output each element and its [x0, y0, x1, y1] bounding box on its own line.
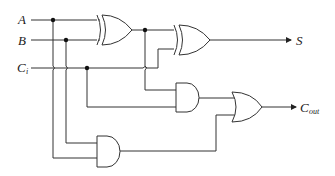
- input-label-b: B: [18, 33, 26, 48]
- input-label-a: A: [17, 12, 26, 27]
- and-gate-2: [97, 136, 120, 167]
- svg-text:C: C: [300, 100, 309, 115]
- output-label-cout: C out: [300, 100, 320, 116]
- svg-text:i: i: [26, 67, 28, 76]
- output-label-s: S: [296, 33, 303, 48]
- input-label-ci: C i: [17, 60, 28, 76]
- wire-b: [31, 38, 100, 143]
- xor-gate-1: [97, 15, 132, 45]
- and-gate-1: [176, 83, 199, 112]
- xor-gate-2: [174, 25, 210, 55]
- svg-text:C: C: [17, 60, 26, 75]
- or-gate: [232, 92, 262, 122]
- svg-text:out: out: [309, 107, 320, 116]
- full-adder-diagram: A B C i S: [0, 0, 335, 176]
- wire-xor1-out: [132, 28, 176, 90]
- wire-and2-out: [120, 115, 236, 151]
